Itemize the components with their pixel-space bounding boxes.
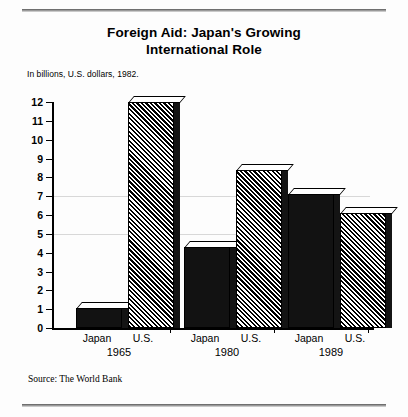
bar-japan-1989 <box>288 188 334 328</box>
x-label-us: U.S. <box>121 332 165 344</box>
chart-title-line-2: International Role <box>0 41 408 58</box>
bar-japan-1965 <box>76 302 122 328</box>
y-axis-line <box>52 102 54 328</box>
chart-title: Foreign Aid: Japan's Growing Internation… <box>0 24 408 58</box>
bar-side-face <box>174 102 180 328</box>
y-axis-tick <box>46 102 52 103</box>
y-axis-tick <box>46 159 52 160</box>
bar-us-1980 <box>236 164 282 328</box>
x-axis-line <box>52 328 374 330</box>
x-group-series-labels: JapanU.S. <box>70 332 168 344</box>
y-axis-label: 0 <box>37 322 43 334</box>
y-axis-label: 9 <box>37 153 43 165</box>
y-axis-label: 12 <box>31 96 43 108</box>
y-axis-tick <box>46 215 52 216</box>
y-axis-tick <box>46 140 52 141</box>
x-group-1989: JapanU.S.1989 <box>282 332 380 358</box>
chart-subtitle: In billions, U.S. dollars, 1982. <box>27 69 139 79</box>
chart-title-line-1: Foreign Aid: Japan's Growing <box>0 24 408 41</box>
y-axis-tick <box>46 328 52 329</box>
y-axis-label: 2 <box>37 284 43 296</box>
bar-front-face <box>236 170 282 328</box>
bar-front-face <box>184 247 230 328</box>
x-label-japan: Japan <box>285 332 333 344</box>
x-label-japan: Japan <box>181 332 229 344</box>
bar-front-face <box>128 102 174 328</box>
x-group-series-labels: JapanU.S. <box>282 332 380 344</box>
bar-side-face <box>386 213 392 328</box>
top-divider-rule <box>22 9 386 12</box>
y-axis-tick <box>46 121 52 122</box>
bar-us-1965 <box>128 96 174 328</box>
y-axis-tick <box>46 290 52 291</box>
bar-japan-1980 <box>184 241 230 328</box>
y-axis-tick <box>46 234 52 235</box>
chart-source: Source: The World Bank <box>28 374 122 384</box>
x-label-year: 1965 <box>70 346 168 358</box>
y-axis-tick <box>46 253 52 254</box>
y-axis-label: 10 <box>31 134 43 146</box>
y-axis-label: 5 <box>37 228 43 240</box>
y-axis-label: 1 <box>37 303 43 315</box>
bottom-divider-rule <box>22 404 386 407</box>
x-group-series-labels: JapanU.S. <box>178 332 276 344</box>
bar-front-face <box>288 194 334 328</box>
plot-area: 0123456789101112 <box>52 102 370 328</box>
y-axis-label: 4 <box>37 247 43 259</box>
y-axis-label: 8 <box>37 171 43 183</box>
y-axis-label: 7 <box>37 190 43 202</box>
x-axis-labels: JapanU.S.1965JapanU.S.1980JapanU.S.1989 <box>52 332 374 372</box>
x-label-japan: Japan <box>73 332 121 344</box>
chart-figure: Foreign Aid: Japan's Growing Internation… <box>0 0 408 417</box>
x-group-1980: JapanU.S.1980 <box>178 332 276 358</box>
x-label-us: U.S. <box>229 332 273 344</box>
bar-front-face <box>76 308 122 328</box>
bar-us-1989 <box>340 207 386 328</box>
x-label-us: U.S. <box>333 332 377 344</box>
x-label-year: 1989 <box>282 346 380 358</box>
y-axis-tick <box>46 272 52 273</box>
y-axis-tick <box>46 309 52 310</box>
y-axis-label: 3 <box>37 266 43 278</box>
y-axis-tick <box>46 196 52 197</box>
y-axis-tick <box>46 177 52 178</box>
y-axis-label: 6 <box>37 209 43 221</box>
bar-front-face <box>340 213 386 328</box>
x-label-year: 1980 <box>178 346 276 358</box>
x-group-1965: JapanU.S.1965 <box>70 332 168 358</box>
y-axis-label: 11 <box>32 115 43 127</box>
